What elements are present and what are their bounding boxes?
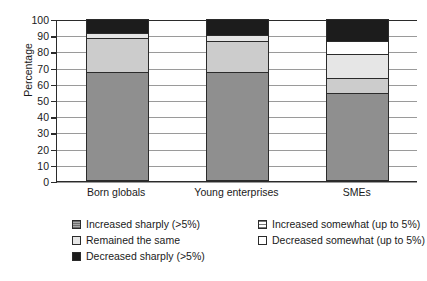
y-tick-80: [51, 52, 57, 53]
legend-item[interactable]: Decreased sharply (>5%): [72, 250, 258, 262]
y-tick-90: [51, 36, 57, 37]
y-axis-tick-label: 30: [19, 128, 49, 138]
bar-segment: [327, 94, 388, 180]
legend-label: Increased sharply (>5%): [86, 218, 200, 230]
y-tick-20: [51, 150, 57, 151]
legend-item[interactable]: Decreased somewhat (up to 5%): [258, 234, 427, 246]
bar-segment: [207, 20, 268, 36]
legend-swatch-icon: [72, 236, 81, 245]
bar-segment: [207, 42, 268, 72]
y-axis-tick-label: 80: [19, 47, 49, 57]
plot-area: 1009080706050403020100: [56, 20, 417, 182]
bar-segment: [87, 39, 148, 73]
stacked-bar-chart: Percentage 1009080706050403020100 Born g…: [0, 0, 427, 281]
y-axis-tick-label: 10: [19, 161, 49, 171]
y-axis-tick-label: 60: [19, 80, 49, 90]
bar-young-enterprises[interactable]: [206, 19, 269, 181]
y-tick-70: [51, 69, 57, 70]
y-axis-tick-label: 90: [19, 31, 49, 41]
gridline-0: [57, 182, 417, 183]
bar-born-globals[interactable]: [86, 19, 149, 181]
y-axis-tick-label: 20: [19, 145, 49, 155]
legend-item[interactable]: Increased somewhat (up to 5%): [258, 218, 427, 230]
chart-legend: Increased sharply (>5%)Increased somewha…: [72, 216, 412, 264]
legend-swatch-icon: [72, 252, 81, 261]
y-tick-60: [51, 85, 57, 86]
bar-segment: [327, 42, 388, 55]
legend-item[interactable]: Increased sharply (>5%): [72, 218, 258, 230]
bar-segment: [327, 79, 388, 93]
y-tick-50: [51, 101, 57, 102]
y-axis-tick-label: 50: [19, 96, 49, 106]
legend-label: Increased somewhat (up to 5%): [272, 218, 420, 230]
bar-smes[interactable]: [326, 19, 389, 181]
bar-segment: [327, 55, 388, 79]
legend-label: Decreased sharply (>5%): [86, 250, 205, 262]
y-tick-100: [51, 20, 57, 21]
y-axis-tick-label: 100: [19, 15, 49, 25]
legend-label: Decreased somewhat (up to 5%): [272, 234, 425, 246]
x-axis-label-smes: SMEs: [297, 186, 417, 198]
y-axis-tick-label: 0: [19, 177, 49, 187]
legend-swatch-icon: [258, 236, 267, 245]
y-tick-10: [51, 166, 57, 167]
bar-segment: [327, 20, 388, 42]
y-axis-tick-label: 70: [19, 64, 49, 74]
legend-item[interactable]: Remained the same: [72, 234, 258, 246]
y-tick-40: [51, 117, 57, 118]
y-tick-0: [51, 182, 57, 183]
legend-label: Remained the same: [86, 234, 180, 246]
legend-swatch-icon: [258, 220, 267, 229]
bar-segment: [207, 73, 268, 180]
legend-swatch-icon: [72, 220, 81, 229]
bar-segment: [87, 20, 148, 34]
x-axis-label-young-enterprises: Young enterprises: [176, 186, 296, 198]
x-axis-label-born-globals: Born globals: [56, 186, 176, 198]
bar-segment: [87, 73, 148, 180]
y-tick-30: [51, 133, 57, 134]
y-axis-tick-label: 40: [19, 112, 49, 122]
